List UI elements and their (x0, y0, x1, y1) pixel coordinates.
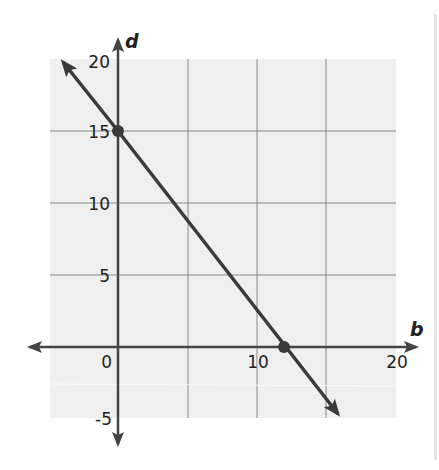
y-tick-0: 0 (101, 352, 112, 372)
y-tick-5: 5 (99, 266, 110, 286)
y-tick-20: 20 (88, 52, 110, 72)
y-tick-15: 15 (88, 122, 110, 142)
x-tick-20: 20 (386, 352, 408, 372)
y-tick-neg5: -5 (95, 409, 112, 429)
point-x-intercept (278, 341, 290, 353)
x-tick-10: 10 (247, 352, 269, 372)
x-axis-label: b (410, 318, 424, 340)
page-edge-bar (434, 14, 437, 460)
point-y-intercept (112, 125, 124, 137)
y-tick-10: 10 (88, 194, 110, 214)
y-axis-label: d (125, 30, 139, 52)
line-graph: 20 15 10 5 0 -5 10 20 d b (0, 0, 439, 470)
